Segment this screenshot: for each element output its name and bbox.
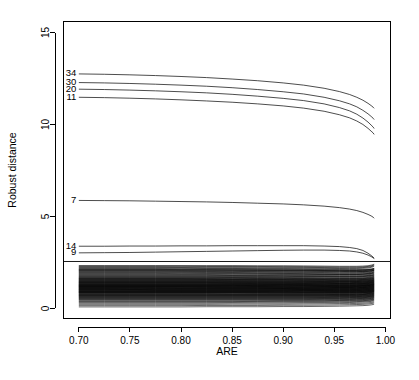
y-tick-label: 0 [40,305,51,311]
point-label-7: 7 [71,194,76,205]
y-tick-label: 5 [40,213,51,219]
x-tick-label: 0.75 [120,335,140,346]
x-tick-label: 0.90 [273,335,293,346]
x-tick-label: 0.85 [222,335,242,346]
chart-figure: 051015 0.700.750.800.850.900.951.00 3430… [0,0,419,380]
y-tick-label: 15 [40,27,51,39]
robust-distance-vs-are-plot: 051015 0.700.750.800.850.900.951.00 3430… [0,0,419,380]
y-axis-title: Robust distance [6,132,18,207]
x-tick-label: 1.00 [376,335,396,346]
point-label-9: 9 [71,246,76,257]
x-tick-label: 0.95 [325,335,345,346]
x-axis-title: ARE [216,345,238,357]
y-tick-label: 10 [40,118,51,130]
figure-background [0,0,419,380]
x-tick-label: 0.80 [171,335,191,346]
point-label-11: 11 [66,91,76,102]
x-tick-label: 0.70 [69,335,89,346]
